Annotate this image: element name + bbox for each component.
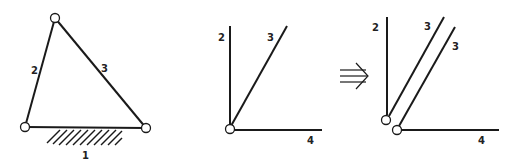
implies-arrow-icon <box>340 63 368 89</box>
joint-middle <box>226 125 235 134</box>
link-3b <box>399 27 455 126</box>
label-3: 3 <box>267 32 274 43</box>
link-2 <box>25 18 55 127</box>
ground-hatching <box>47 130 122 145</box>
diagram-svg: 1 2 3 2 3 4 2 3 3 4 <box>0 0 510 166</box>
label-1: 1 <box>82 150 89 161</box>
label-4: 4 <box>307 135 314 146</box>
triangle-linkage <box>25 18 146 128</box>
middle-linkage <box>230 26 322 130</box>
joint-right <box>142 124 151 133</box>
kinematic-diagram: 1 2 3 2 3 4 2 3 3 4 <box>0 0 510 166</box>
right-linkage <box>387 17 499 130</box>
joint-lower <box>393 126 402 135</box>
ground-link-1 <box>25 127 146 128</box>
link-3a <box>389 17 444 116</box>
label-2: 2 <box>372 22 379 33</box>
label-2: 2 <box>218 32 225 43</box>
link-3 <box>231 26 287 126</box>
label-3a: 3 <box>424 21 431 32</box>
label-2: 2 <box>31 65 38 76</box>
joint-upper <box>382 116 391 125</box>
label-3b: 3 <box>452 41 459 52</box>
joint-left <box>21 123 30 132</box>
label-4: 4 <box>478 135 485 146</box>
joint-top <box>51 14 60 23</box>
label-3: 3 <box>101 63 108 74</box>
